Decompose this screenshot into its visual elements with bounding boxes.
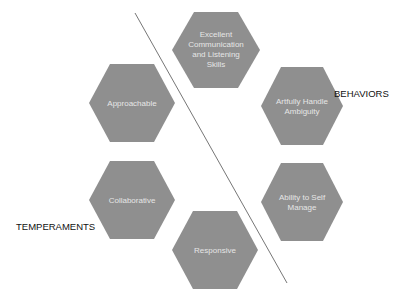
hexagon-label: Skills [207,60,226,69]
hexagon-label: Artfully Handle [276,97,329,106]
temperaments-label: TEMPERAMENTS [16,221,95,232]
competency-hexagon-diagram: Excellent Communication and Listening Sk… [0,0,399,302]
hexagon-approachable: Approachable [89,64,175,142]
hexagon-label: and Listening [192,50,240,59]
hexagon-label: Collaborative [109,196,156,205]
hexagon-self-manage: Ability to Self Manage [261,163,343,241]
hexagon-label: Approachable [107,99,157,108]
behaviors-label: BEHAVIORS [334,88,389,99]
hexagon-communication: Excellent Communication and Listening Sk… [172,12,260,88]
hexagon-label: Excellent [200,30,233,39]
hexagon-label: Responsive [194,246,236,255]
hexagon-label: Manage [288,203,317,212]
hexagon-ambiguity: Artfully Handle Ambiguity [261,67,343,145]
hexagon-label: Ability to Self [279,193,326,202]
hexagon-label: Communication [188,40,244,49]
hexagon-collaborative: Collaborative [89,161,175,239]
hexagon-responsive: Responsive [172,211,258,289]
hexagon-label: Ambiguity [284,107,319,116]
